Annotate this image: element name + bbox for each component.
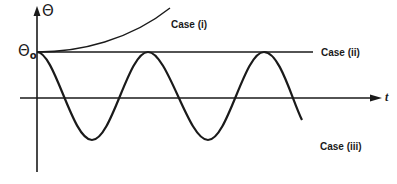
theta-zero-symbol: Θ bbox=[18, 42, 30, 60]
theta-axis-label: Θ bbox=[42, 2, 54, 20]
case-iii-label: Case (iii) bbox=[320, 141, 362, 152]
case-iii-curve bbox=[37, 52, 302, 140]
case-i-curve bbox=[37, 8, 170, 52]
time-axis-label: t bbox=[385, 90, 388, 105]
time-axis-arrow-icon bbox=[370, 95, 382, 102]
case-i-label: Case (i) bbox=[171, 19, 207, 30]
case-ii-label: Case (ii) bbox=[321, 47, 360, 58]
theta-zero-subscript: o bbox=[30, 50, 37, 61]
theta-zero-label: Θo bbox=[18, 42, 37, 60]
theta-axis-arrow-icon bbox=[34, 6, 41, 16]
